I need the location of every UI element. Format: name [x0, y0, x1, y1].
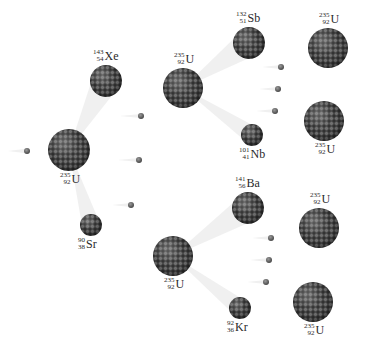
nucleon-numbers: 23592 [319, 12, 330, 26]
element-symbol: Xe [105, 50, 119, 62]
isotope-label: 14156Ba [235, 176, 260, 190]
atomic-number: 36 [227, 327, 234, 334]
isotope-label: 23592U [174, 52, 194, 66]
nucleus-nb [241, 124, 263, 146]
nucleon-numbers: 23592 [174, 52, 185, 66]
neutron-n-gen2-top-a [278, 64, 284, 70]
atomic-number: 54 [97, 56, 104, 63]
isotope-label: 10141Nb [239, 147, 265, 161]
nucleus-xe [90, 65, 122, 97]
isotope-label: 14354Xe [93, 49, 119, 63]
element-symbol: U [176, 278, 185, 290]
isotope-label: 9236Kr [227, 320, 248, 334]
isotope-label: 23592U [315, 142, 335, 156]
atomic-number: 51 [240, 18, 247, 25]
neutron-n-incoming [24, 148, 30, 154]
nucleon-numbers: 13251 [236, 11, 247, 25]
isotope-label: 23592U [164, 277, 184, 291]
element-symbol: Sr [86, 238, 97, 250]
nucleus-kr [229, 297, 251, 319]
atomic-number: 92 [323, 19, 330, 26]
nucleus-u-gen2-top [163, 68, 203, 108]
isotope-label: 23592U [304, 323, 324, 337]
element-symbol: U [316, 324, 325, 336]
nucleon-numbers: 9236 [227, 320, 234, 334]
atomic-number: 92 [168, 284, 175, 291]
atomic-number: 92 [319, 149, 326, 156]
nucleon-numbers: 23592 [315, 142, 326, 156]
nucleon-numbers: 10141 [239, 147, 250, 161]
isotope-label: 9038Sr [78, 237, 97, 251]
neutron-n-gen2-bot-c [263, 279, 269, 285]
nucleus-ba [232, 192, 264, 224]
atomic-number: 41 [243, 154, 250, 161]
element-symbol: U [331, 13, 340, 25]
neutron-n-gen2-top-c [272, 108, 278, 114]
isotope-label: 13251Sb [236, 11, 260, 25]
element-symbol: Ba [247, 177, 260, 189]
element-symbol: Nb [251, 148, 266, 160]
nucleon-numbers: 23592 [310, 192, 321, 206]
neutron-n-gen1-a [138, 113, 144, 119]
nucleus-u-gen3-1 [308, 28, 348, 68]
atomic-number: 92 [178, 59, 185, 66]
element-symbol: U [327, 143, 336, 155]
atomic-number: 56 [239, 183, 246, 190]
neutron-n-gen2-bot-a [268, 235, 274, 241]
nucleus-sr [80, 214, 102, 236]
element-symbol: Kr [235, 321, 248, 333]
atomic-number: 92 [314, 199, 321, 206]
atomic-number: 92 [64, 179, 71, 186]
atomic-number: 92 [308, 330, 315, 337]
nucleus-u-gen3-2 [304, 101, 344, 141]
nucleon-numbers: 23592 [304, 323, 315, 337]
nucleon-numbers: 23592 [60, 172, 71, 186]
neutron-n-gen2-bot-b [266, 257, 272, 263]
element-symbol: Sb [248, 12, 261, 24]
neutron-n-gen2-top-b [275, 86, 281, 92]
nucleon-numbers: 14354 [93, 49, 104, 63]
nucleon-numbers: 23592 [164, 277, 175, 291]
nucleus-u-gen3-3 [299, 208, 339, 248]
nucleus-u-initial [48, 129, 90, 171]
element-symbol: U [322, 193, 331, 205]
nucleon-numbers: 9038 [78, 237, 85, 251]
neutron-n-gen1-c [128, 202, 134, 208]
nucleus-u-gen2-bottom [153, 236, 193, 276]
element-symbol: U [186, 53, 195, 65]
nucleus-u-gen3-4 [293, 282, 333, 322]
isotope-label: 23592U [60, 172, 80, 186]
isotope-label: 23592U [310, 192, 330, 206]
nucleus-sb [233, 27, 265, 59]
neutron-n-gen1-b [136, 157, 142, 163]
atomic-number: 38 [78, 244, 85, 251]
nucleon-numbers: 14156 [235, 176, 246, 190]
fission-chain-diagram: 23592U14354Xe9038Sr23592U23592U13251Sb10… [0, 0, 366, 353]
element-symbol: U [72, 173, 81, 185]
isotope-label: 23592U [319, 12, 339, 26]
